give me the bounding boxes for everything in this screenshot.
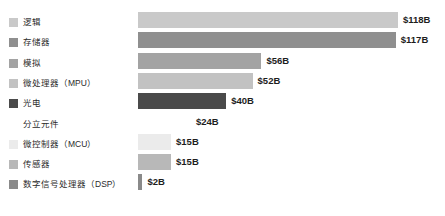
legend-swatch-icon bbox=[9, 59, 18, 68]
bar-row: $118B bbox=[138, 12, 430, 28]
legend-item[interactable]: 光电 bbox=[9, 98, 41, 109]
legend-item-label: 微控制器（MCU） bbox=[23, 139, 96, 150]
bar-segment[interactable] bbox=[138, 73, 253, 89]
bar-row: $117B bbox=[138, 32, 428, 48]
legend-item-label: 光电 bbox=[23, 98, 41, 109]
legend-item[interactable]: 模拟 bbox=[9, 58, 41, 69]
legend-item-label: 存储器 bbox=[23, 37, 50, 48]
bar-value-label: $52B bbox=[258, 73, 281, 89]
bar-value-label: $24B bbox=[196, 114, 219, 130]
legend-swatch-icon bbox=[9, 18, 18, 27]
bar-value-label: $118B bbox=[403, 12, 430, 28]
legend-item-label: 传感器 bbox=[23, 159, 50, 170]
legend-item-label: 数字信号处理器（DSP） bbox=[23, 179, 121, 190]
legend-item-label: 逻辑 bbox=[23, 17, 41, 28]
legend-swatch-icon bbox=[9, 140, 18, 149]
bar-row: $56B bbox=[138, 53, 289, 69]
legend-item[interactable]: 逻辑 bbox=[9, 17, 41, 28]
bar-segment[interactable] bbox=[138, 12, 398, 28]
legend-swatch-icon bbox=[9, 79, 18, 88]
bar-value-label: $40B bbox=[231, 93, 254, 109]
bar-value-label: $2B bbox=[147, 174, 164, 190]
legend-item[interactable]: 微处理器（MPU） bbox=[9, 78, 96, 89]
legend-swatch-icon bbox=[9, 160, 18, 169]
bar-value-label: $15B bbox=[176, 134, 199, 150]
legend-item[interactable]: 传感器 bbox=[9, 159, 50, 170]
bar-row: $52B bbox=[138, 73, 280, 89]
legend-swatch-icon bbox=[9, 99, 18, 108]
bar-row: $15B bbox=[138, 134, 199, 150]
bar-segment[interactable] bbox=[138, 53, 261, 69]
legend-item[interactable]: 存储器 bbox=[9, 37, 50, 48]
legend-item-label: 微处理器（MPU） bbox=[23, 78, 96, 89]
legend-swatch-icon bbox=[9, 180, 18, 189]
legend-swatch-icon bbox=[9, 120, 18, 129]
bar-segment[interactable] bbox=[138, 174, 142, 190]
legend-swatch-icon bbox=[9, 38, 18, 47]
bar-row: $15B bbox=[138, 154, 199, 170]
bar-chart: 逻辑存储器模拟微处理器（MPU）光电分立元件微控制器（MCU）传感器数字信号处理… bbox=[0, 0, 445, 216]
bar-segment[interactable] bbox=[138, 154, 171, 170]
legend-item[interactable]: 数字信号处理器（DSP） bbox=[9, 179, 121, 190]
chart-legend: 逻辑存储器模拟微处理器（MPU）光电分立元件微控制器（MCU）传感器数字信号处理… bbox=[0, 0, 138, 216]
bar-row: $24B bbox=[138, 114, 219, 130]
bar-row: $2B bbox=[138, 174, 165, 190]
bar-segment[interactable] bbox=[138, 114, 191, 130]
bar-row: $40B bbox=[138, 93, 254, 109]
bar-value-label: $56B bbox=[266, 53, 289, 69]
bar-segment[interactable] bbox=[138, 93, 226, 109]
bar-value-label: $117B bbox=[401, 32, 428, 48]
bar-segment[interactable] bbox=[138, 134, 171, 150]
legend-item[interactable]: 分立元件 bbox=[9, 119, 59, 130]
chart-plot-area: $118B$117B$56B$52B$40B$24B$15B$15B$2B bbox=[138, 0, 445, 216]
bar-segment[interactable] bbox=[138, 32, 396, 48]
bar-value-label: $15B bbox=[176, 154, 199, 170]
legend-item-label: 分立元件 bbox=[23, 119, 59, 130]
legend-item[interactable]: 微控制器（MCU） bbox=[9, 139, 96, 150]
legend-item-label: 模拟 bbox=[23, 58, 41, 69]
